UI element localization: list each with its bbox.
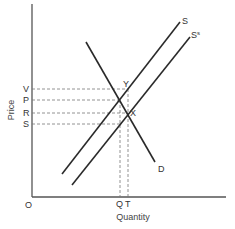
supply-curve-label: S	[182, 16, 188, 26]
price-level-r: R	[23, 108, 30, 118]
origin-label: O	[25, 200, 32, 210]
quantity-level-t: T	[125, 199, 131, 209]
x-axis-label: Quantity	[116, 212, 150, 222]
price-level-s: S	[23, 119, 29, 129]
price-level-v: V	[23, 84, 29, 94]
price-level-p: P	[23, 95, 29, 105]
supply-demand-diagram: S Ss D Y X V P R S Q T O Price Quantity	[0, 0, 235, 229]
supply-subsidy-curve-label: Ss	[191, 30, 200, 40]
demand-curve-label: D	[158, 164, 165, 174]
demand-curve	[86, 42, 155, 162]
quantity-level-q: Q	[116, 199, 123, 209]
y-axis-label: Price	[6, 100, 16, 121]
point-x-label: X	[130, 108, 136, 118]
point-y-label: Y	[123, 79, 129, 89]
supply-curve	[62, 22, 180, 174]
